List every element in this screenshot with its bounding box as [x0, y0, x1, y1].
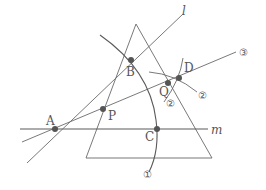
label-D: D — [184, 61, 194, 75]
label-arc-2a: ② — [166, 98, 175, 109]
point-D — [176, 75, 182, 81]
label-Q: Q — [159, 85, 169, 99]
label-C: C — [145, 130, 154, 144]
arc-1 — [100, 35, 157, 172]
point-P — [100, 106, 106, 112]
point-C — [154, 126, 160, 132]
geometry-diagram: A B P Q D C l m ③ ① ② ② — [0, 0, 266, 190]
label-arc-1: ① — [143, 169, 152, 180]
label-B: B — [126, 65, 135, 79]
label-P: P — [108, 109, 116, 123]
label-l: l — [182, 4, 186, 18]
label-arc-2b: ② — [198, 90, 207, 101]
label-A: A — [45, 114, 55, 128]
label-3: ③ — [239, 47, 248, 58]
point-B — [128, 57, 134, 63]
label-m: m — [211, 123, 222, 137]
